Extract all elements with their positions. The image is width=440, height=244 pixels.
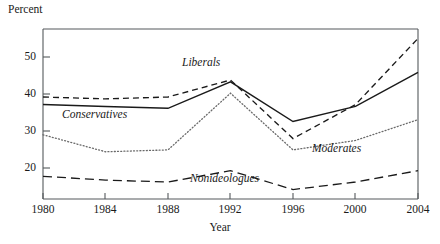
- x-tick-label-1980: 1980: [20, 203, 66, 215]
- chart-figure: Percent Year 50 40 30 20 1980 1984 1988 …: [0, 0, 440, 244]
- series-label-nonideologues: Nonideologues: [190, 172, 259, 184]
- x-tick-label-1996: 1996: [270, 203, 316, 215]
- y-tick-label-40: 40: [10, 87, 36, 99]
- x-tick-label-1988: 1988: [145, 203, 191, 215]
- x-tick-label-2004: 2004: [395, 203, 440, 215]
- x-tick-label-1984: 1984: [82, 203, 128, 215]
- y-tick-label-30: 30: [10, 124, 36, 136]
- y-tick-label-50: 50: [10, 50, 36, 62]
- series-label-moderates: Moderates: [312, 142, 361, 154]
- series-label-conservatives: Conservatives: [62, 108, 127, 120]
- x-tick-label-2000: 2000: [332, 203, 378, 215]
- x-axis-ticks: [43, 193, 418, 199]
- y-axis-ticks: [43, 57, 50, 168]
- series-line-liberals: [43, 38, 418, 138]
- x-axis-title: Year: [0, 221, 440, 233]
- series-line-moderates: [43, 93, 418, 152]
- series-label-liberals: Liberals: [182, 56, 220, 68]
- y-tick-label-20: 20: [10, 161, 36, 173]
- y-axis-title: Percent: [8, 3, 42, 15]
- x-tick-label-1992: 1992: [207, 203, 253, 215]
